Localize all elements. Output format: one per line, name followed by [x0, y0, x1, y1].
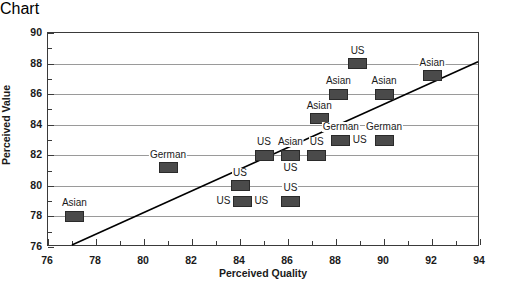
- data-point-label: Asian: [277, 137, 304, 147]
- data-point-label: Asian: [325, 76, 352, 86]
- data-point-label: Asian: [61, 198, 88, 208]
- data-point-label: US: [232, 168, 248, 178]
- data-point-marker: [233, 196, 252, 207]
- data-point-marker: [231, 180, 250, 191]
- y-axis-title: Perceived Value: [0, 85, 12, 165]
- data-point-marker: [307, 150, 326, 161]
- y-tick-label-82: 82: [16, 149, 42, 160]
- x-tick-label-90: 90: [370, 255, 396, 266]
- data-point-marker: [65, 211, 84, 222]
- y-tick-label-86: 86: [16, 88, 42, 99]
- data-point-marker: [281, 196, 300, 207]
- x-tick-label-86: 86: [274, 255, 300, 266]
- data-point-label: US: [256, 137, 272, 147]
- data-point-marker: [375, 135, 394, 146]
- x-tick-label-76: 76: [34, 255, 60, 266]
- x-tick-label-94: 94: [466, 255, 492, 266]
- y-tick-label-88: 88: [16, 58, 42, 69]
- y-tick-label-78: 78: [16, 210, 42, 221]
- y-tick-major-76: [48, 247, 54, 248]
- data-point-label: Asian: [418, 58, 445, 68]
- data-point-marker: [348, 58, 367, 69]
- x-tick-label-84: 84: [226, 255, 252, 266]
- trendline-path: [72, 62, 478, 245]
- data-point-marker: [329, 89, 348, 100]
- data-point-label: US: [215, 196, 231, 206]
- scatter-chart: Perceived Value 7678808284868890 7678808…: [0, 18, 505, 283]
- data-point-label: Asian: [370, 76, 397, 86]
- x-axis-title: Perceived Quality: [47, 267, 479, 279]
- data-point-marker: [281, 150, 300, 161]
- y-axis-label-wrap: Perceived Value: [0, 18, 14, 232]
- data-point-marker: [331, 135, 350, 146]
- y-tick-label-76: 76: [16, 241, 42, 252]
- data-point-marker: [159, 162, 178, 173]
- x-tick-label-80: 80: [130, 255, 156, 266]
- data-point-label: US: [352, 135, 368, 145]
- data-point-label: US: [282, 163, 298, 173]
- data-point-label: US: [282, 183, 298, 193]
- data-point-label: German: [149, 150, 187, 160]
- data-point-label: German: [322, 122, 360, 132]
- data-point-label: Asian: [306, 101, 333, 111]
- x-tick-label-78: 78: [82, 255, 108, 266]
- x-tick-label-88: 88: [322, 255, 348, 266]
- data-point-label: US: [350, 46, 366, 56]
- x-tick-label-82: 82: [178, 255, 204, 266]
- data-point-marker: [255, 150, 274, 161]
- data-point-marker: [423, 70, 442, 81]
- x-tick-label-92: 92: [418, 255, 444, 266]
- y-tick-label-90: 90: [16, 27, 42, 38]
- plot-area: AsianGermanUSUSUSUSUSAsianUSUSAsianGerma…: [47, 32, 479, 246]
- data-point-label: German: [365, 122, 403, 132]
- data-point-label: US: [309, 137, 325, 147]
- data-point-label: US: [253, 196, 269, 206]
- x-tick-major-94: [480, 239, 481, 245]
- y-tick-label-80: 80: [16, 180, 42, 191]
- y-tick-label-84: 84: [16, 119, 42, 130]
- data-point-marker: [375, 89, 394, 100]
